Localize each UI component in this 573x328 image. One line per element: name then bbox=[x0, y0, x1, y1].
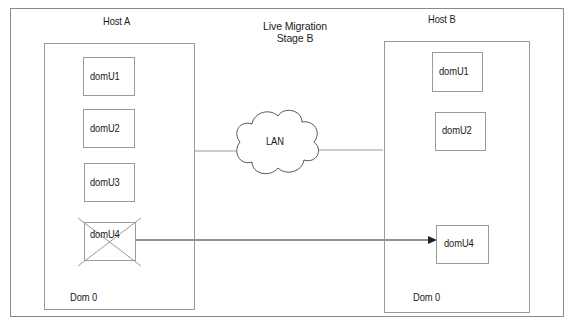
host-a-domu3-label: domU3 bbox=[90, 176, 120, 188]
diagram-title: Live Migration Stage B bbox=[245, 20, 345, 44]
host-b-dom0-label: Dom 0 bbox=[413, 291, 440, 303]
title-line-2: Stage B bbox=[245, 32, 345, 44]
host-a-domu4-label: domU4 bbox=[90, 228, 120, 240]
host-a-dom0-label: Dom 0 bbox=[70, 291, 97, 303]
host-a-domu2-label: domU2 bbox=[90, 122, 120, 134]
host-a-label: Host A bbox=[103, 15, 130, 27]
host-b-domu1-label: domU1 bbox=[439, 65, 469, 77]
host-b-domu4-label: domU4 bbox=[444, 237, 474, 249]
host-b-label: Host B bbox=[428, 13, 456, 25]
host-b-domu2-label: domU2 bbox=[442, 124, 472, 136]
host-a-domu1-label: domU1 bbox=[90, 70, 120, 82]
title-line-1: Live Migration bbox=[245, 20, 345, 32]
lan-label: LAN bbox=[266, 135, 284, 147]
